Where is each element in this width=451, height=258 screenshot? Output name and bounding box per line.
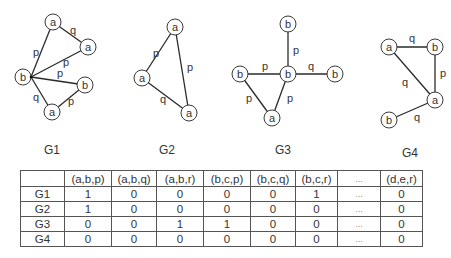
table-cell: 0 bbox=[251, 217, 296, 232]
node-label: b bbox=[332, 68, 338, 80]
table-cell: 0 bbox=[251, 187, 296, 202]
column-header: (a,b,r) bbox=[157, 171, 204, 187]
table-cell: 0 bbox=[381, 217, 423, 232]
table-cell: 0 bbox=[112, 202, 157, 217]
node-label: b bbox=[237, 68, 243, 80]
row-header: G1 bbox=[21, 187, 65, 202]
table-cell: ... bbox=[338, 232, 381, 247]
table-cell: 0 bbox=[157, 232, 204, 247]
graph-node: a bbox=[44, 104, 60, 120]
graph-node: a bbox=[181, 105, 197, 121]
feature-table: (a,b,p) (a,b,q) (a,b,r) (b,c,p) (b,c,q) … bbox=[20, 170, 423, 247]
node-label: b bbox=[386, 114, 392, 126]
edge-label: q bbox=[70, 24, 76, 36]
table-cell: ... bbox=[338, 187, 381, 202]
table-cell: 0 bbox=[65, 217, 112, 232]
graph-node: a bbox=[427, 92, 443, 108]
graph-node: a bbox=[45, 14, 61, 30]
node-label: b bbox=[285, 68, 291, 80]
graph-node: a bbox=[134, 70, 150, 86]
edge-label: p bbox=[187, 61, 193, 73]
graph-node: b bbox=[280, 16, 296, 32]
node-label: b bbox=[432, 41, 438, 53]
table-cell: 0 bbox=[204, 232, 251, 247]
node-label: b bbox=[20, 71, 26, 83]
table-cell: 0 bbox=[296, 202, 338, 217]
node-label: a bbox=[85, 41, 92, 53]
table-cell: 0 bbox=[251, 232, 296, 247]
column-header: (b,c,p) bbox=[204, 171, 251, 187]
graph-node: b bbox=[427, 39, 443, 55]
graph-g4: qpqqababG4 bbox=[381, 32, 446, 160]
edge-label: p bbox=[63, 56, 69, 68]
table-cell: 1 bbox=[296, 187, 338, 202]
graph-node: b bbox=[280, 66, 296, 82]
table-row: G2100000...0 bbox=[21, 202, 423, 217]
node-label: b bbox=[82, 79, 88, 91]
graph-node: a bbox=[381, 39, 397, 55]
column-header: (b,c,r) bbox=[296, 171, 338, 187]
table-cell: ... bbox=[338, 217, 381, 232]
graph-g1: qpppqpaabbaG1 bbox=[15, 14, 96, 157]
edge-label: p bbox=[262, 60, 268, 72]
edge-label: q bbox=[409, 32, 415, 44]
edge-label: q bbox=[414, 111, 420, 123]
edge bbox=[389, 47, 435, 100]
table-cell: 0 bbox=[112, 232, 157, 247]
table-cell: 1 bbox=[204, 217, 251, 232]
graph-title: G4 bbox=[402, 146, 418, 160]
column-header: (d,e,r) bbox=[381, 171, 423, 187]
table-cell: 0 bbox=[65, 232, 112, 247]
node-label: a bbox=[432, 94, 439, 106]
graph-node: a bbox=[80, 39, 96, 55]
table-cell: 0 bbox=[204, 187, 251, 202]
graph-title: G2 bbox=[159, 143, 175, 157]
table-row: G1100001...0 bbox=[21, 187, 423, 202]
node-label: a bbox=[269, 112, 276, 124]
graph-title: G3 bbox=[275, 143, 291, 157]
node-label: a bbox=[386, 41, 393, 53]
column-header: (b,c,q) bbox=[251, 171, 296, 187]
table-cell: 0 bbox=[112, 217, 157, 232]
graph-node: b bbox=[77, 77, 93, 93]
table-cell: 1 bbox=[65, 202, 112, 217]
edge-label: p bbox=[68, 95, 74, 107]
column-header bbox=[21, 171, 65, 187]
graph-g2: ppqaaaG2 bbox=[134, 19, 197, 157]
table-cell: 0 bbox=[381, 187, 423, 202]
table-cell: 0 bbox=[251, 202, 296, 217]
table-cell: 0 bbox=[381, 232, 423, 247]
edge-label: q bbox=[160, 93, 166, 105]
edge-label: p bbox=[440, 67, 446, 79]
table-cell: 1 bbox=[157, 217, 204, 232]
table-row: G3001100...0 bbox=[21, 217, 423, 232]
row-header: G2 bbox=[21, 202, 65, 217]
table-header-row: (a,b,p) (a,b,q) (a,b,r) (b,c,p) (b,c,q) … bbox=[21, 171, 423, 187]
hub-point bbox=[30, 76, 33, 79]
table-cell: 0 bbox=[112, 187, 157, 202]
table-cell: 0 bbox=[381, 202, 423, 217]
edge-label: p bbox=[153, 47, 159, 59]
table-cell: 0 bbox=[157, 187, 204, 202]
graph-node: a bbox=[167, 19, 183, 35]
graph-node: b bbox=[381, 112, 397, 128]
edge-label: p bbox=[33, 46, 39, 58]
row-header: G3 bbox=[21, 217, 65, 232]
graph-node: b bbox=[327, 66, 343, 82]
node-label: a bbox=[139, 72, 146, 84]
edge-label: p bbox=[57, 67, 63, 79]
table-cell: 0 bbox=[157, 202, 204, 217]
table-row: G4000000...0 bbox=[21, 232, 423, 247]
node-label: a bbox=[172, 21, 179, 33]
edge-label: p bbox=[293, 44, 299, 56]
table-cell: 0 bbox=[296, 232, 338, 247]
graph-node: b bbox=[15, 69, 31, 85]
graph-title: G1 bbox=[44, 143, 60, 157]
node-label: b bbox=[285, 18, 291, 30]
edge-label: p bbox=[246, 92, 252, 104]
table-cell: 0 bbox=[204, 202, 251, 217]
edge-label: q bbox=[308, 60, 314, 72]
table-cell: 0 bbox=[296, 217, 338, 232]
row-header: G4 bbox=[21, 232, 65, 247]
edge-label: p bbox=[287, 92, 293, 104]
